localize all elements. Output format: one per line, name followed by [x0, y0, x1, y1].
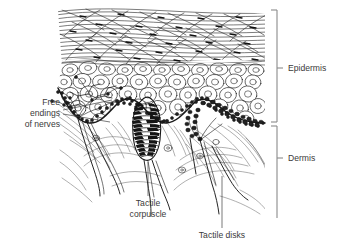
- skin-histology-figure: Epidermis Dermis Free endings of nerves …: [0, 0, 340, 250]
- label-free-endings-line3: of nerves: [25, 119, 60, 129]
- label-free-endings-line1: Free: [42, 97, 60, 107]
- dermis-bracket: [271, 126, 283, 218]
- label-tactile-corpuscle-line2: corpuscle: [130, 209, 167, 219]
- epidermis-bracket: [271, 10, 283, 122]
- label-dermis: Dermis: [288, 153, 315, 163]
- region-brackets: [271, 10, 283, 218]
- label-tactile-corpuscle-line1: Tactile: [136, 198, 161, 208]
- label-epidermis: Epidermis: [288, 63, 326, 73]
- stratum-corneum: [55, 9, 268, 66]
- label-tactile-disks: Tactile disks: [199, 230, 245, 240]
- nerve-fibers: [78, 119, 248, 216]
- skin-diagram-svg: Epidermis Dermis Free endings of nerves …: [0, 0, 340, 250]
- label-free-endings-line2: endings: [30, 108, 60, 118]
